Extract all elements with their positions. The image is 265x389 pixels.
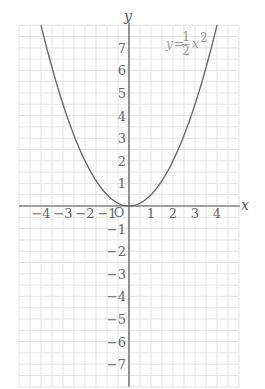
y-tick-label: 1: [118, 176, 126, 191]
equation-label: y = 1 2 x 2: [165, 30, 208, 58]
y-tick-label: −1: [107, 222, 126, 237]
equation-numerator: 1: [182, 30, 190, 44]
y-tick-label: −6: [107, 335, 126, 350]
equation-variable: x: [192, 37, 199, 51]
y-axis-label: y: [123, 8, 133, 24]
x-tick-label: −3: [53, 206, 72, 221]
equation-exponent: 2: [200, 31, 208, 45]
x-tick-label: 4: [213, 206, 221, 221]
y-tick-label: 6: [118, 63, 126, 78]
y-tick-label: 4: [118, 109, 126, 124]
equation-denominator: 2: [182, 44, 190, 58]
y-tick-label: −5: [107, 312, 126, 327]
parabola-graph: −4−3−2−112347654321−1−2−3−4−5−6−7 x y O …: [0, 0, 265, 389]
y-tick-label: −7: [107, 357, 126, 372]
x-tick-label: 3: [191, 206, 199, 221]
y-tick-label: −4: [107, 289, 126, 304]
origin-label: O: [114, 205, 125, 220]
y-tick-label: 3: [118, 131, 126, 146]
y-tick-label: −2: [107, 244, 126, 259]
y-tick-label: 7: [118, 41, 126, 56]
y-tick-label: 5: [118, 86, 126, 101]
x-axis-label: x: [241, 197, 249, 213]
equation-lhs: y: [165, 37, 173, 51]
y-tick-label: 2: [118, 154, 126, 169]
x-tick-label: −2: [75, 206, 94, 221]
y-tick-label: −3: [107, 267, 126, 282]
x-tick-label: 2: [169, 206, 177, 221]
x-tick-label: −4: [31, 206, 50, 221]
x-tick-label: 1: [147, 206, 155, 221]
